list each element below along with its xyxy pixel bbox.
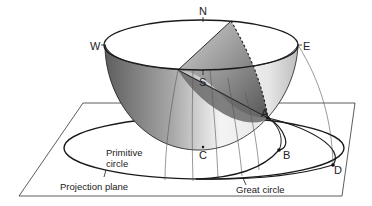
label-great-circle: Great circle: [236, 184, 285, 195]
label-south: S: [199, 76, 206, 88]
label-point-c: C: [199, 149, 207, 161]
label-west: W: [90, 40, 101, 52]
label-point-d: D: [334, 164, 342, 176]
point-b: [277, 148, 281, 152]
label-point-a: A: [261, 107, 269, 119]
label-north: N: [199, 5, 207, 17]
label-primitive-circle-1: Primitive: [106, 147, 142, 158]
stereographic-projection-diagram: N W E S A B C D Primitive circle Project…: [0, 0, 372, 206]
label-projection-plane: Projection plane: [60, 181, 128, 192]
label-point-b: B: [283, 149, 290, 161]
label-primitive-circle-2: circle: [106, 158, 128, 169]
label-east: E: [303, 40, 310, 52]
point-c: [202, 146, 204, 148]
